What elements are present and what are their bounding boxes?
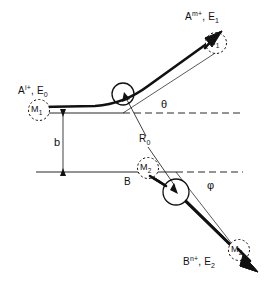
label-outgoing-projectile: Am+, E1 [185, 10, 219, 24]
incoming-projectile-energy-index: 0 [44, 91, 48, 98]
label-mass-target-outgoing: M2 [231, 245, 243, 256]
mass-target-rest-index: 2 [148, 167, 152, 174]
mass-target-rest-symbol: M [140, 162, 148, 172]
outgoing-projectile-energy-index: 1 [215, 17, 219, 24]
target-recoil-stub-at-rest [150, 176, 160, 182]
mass-projectile-incoming-symbol: M [31, 104, 39, 114]
outgoing-target-charge: n+ [190, 255, 198, 262]
incoming-projectile-energy: , E [31, 85, 44, 96]
outgoing-target-species: B [183, 256, 190, 267]
incoming-projectile-species: A [18, 85, 25, 96]
label-angle-theta: θ [161, 99, 167, 110]
closest-approach-index: 0 [146, 139, 150, 146]
mass-projectile-outgoing-index: 1 [216, 42, 220, 49]
collision-diagram-figure: Ai+, E0 Am+, E1 Bn+, E2 M1 M1 M2 M2 B θ … [0, 0, 266, 283]
label-outgoing-target: Bn+, E2 [183, 255, 215, 269]
upper-interaction-circle [112, 83, 134, 105]
outgoing-projectile-energy: , E [202, 11, 215, 22]
label-mass-target-rest: M2 [140, 163, 152, 174]
label-target-atom: B [124, 177, 131, 187]
mass-target-outgoing-symbol: M [231, 244, 239, 254]
theta-angle-arm-line [123, 48, 223, 113]
mass-projectile-incoming-index: 1 [39, 109, 43, 116]
label-mass-projectile-incoming: M1 [31, 105, 43, 116]
diagram-canvas [0, 0, 266, 283]
outgoing-target-energy: , E [198, 256, 211, 267]
outgoing-projectile-charge: m+ [192, 10, 202, 17]
mass-target-outgoing-index: 2 [239, 249, 243, 256]
label-incoming-projectile: Ai+, E0 [18, 84, 48, 98]
label-mass-projectile-outgoing: M1 [208, 38, 220, 49]
target-arrowhead-over-mass [240, 255, 258, 272]
label-closest-approach: R0 [139, 134, 151, 146]
mass-projectile-outgoing-symbol: M [208, 37, 216, 47]
outgoing-target-energy-index: 2 [211, 262, 215, 269]
r0-pointer-line-upper [126, 98, 146, 136]
label-impact-parameter: b [54, 137, 60, 148]
label-angle-phi: φ [207, 180, 214, 191]
outgoing-projectile-species: A [185, 11, 192, 22]
